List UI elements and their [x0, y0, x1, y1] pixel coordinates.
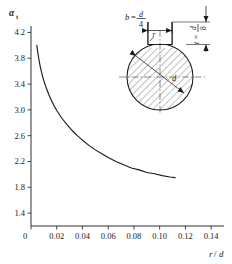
stress-concentration-chart: 1.41.82.22.63.03.43.84.2 0.020.040.060.0… [0, 0, 232, 264]
depth-label-denominator: 8 [199, 26, 208, 30]
x-tick-label: 0.04 [75, 231, 91, 241]
width-label-equals: = [131, 12, 136, 22]
fillet-label: r [153, 30, 156, 39]
origin-label: 0 [23, 231, 27, 241]
x-tick-label: 0.08 [126, 231, 141, 241]
x-tick-label: 0.06 [101, 231, 116, 241]
y-tick-label: 4.2 [14, 27, 25, 37]
x-axis-title-numerator: r [209, 249, 213, 259]
x-tick-label: 0.02 [49, 231, 64, 241]
y-tick-label: 3.8 [14, 53, 25, 63]
depth-label-numerator: d [189, 26, 198, 30]
y-tick-label: 2.6 [14, 131, 25, 141]
width-label-denominator: 4 [139, 20, 143, 29]
x-tick-label: 0.10 [152, 231, 167, 241]
y-tick-label: 2.2 [14, 156, 25, 166]
x-tick-label: 0.14 [204, 231, 220, 241]
y-tick-label: 3.4 [14, 79, 25, 89]
depth-label-equals: = [192, 35, 201, 39]
y-axis-title-symbol: α [9, 8, 15, 18]
y-tick-label: 1.8 [14, 182, 25, 192]
x-axis-title-denominator: d [219, 249, 224, 259]
x-tick-label: 0.12 [178, 231, 193, 241]
y-tick-label: 3.0 [14, 105, 25, 115]
y-tick-label: 1.4 [14, 208, 25, 218]
x-axis-title: r / d [209, 249, 224, 259]
width-label-symbol: b [125, 12, 129, 22]
